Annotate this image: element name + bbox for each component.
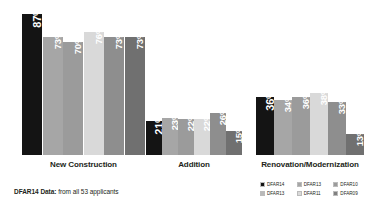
- legend-swatch-icon: [333, 191, 338, 196]
- bar: 15%: [226, 131, 242, 155]
- legend-swatch-icon: [297, 191, 302, 196]
- bar-value-label: 73%: [135, 31, 145, 49]
- bar: 87%: [22, 14, 42, 155]
- bar-value-label: 73%: [53, 31, 63, 49]
- bar: 70%: [63, 42, 83, 155]
- bar-value-label: 26%: [218, 107, 228, 125]
- legend-swatch-icon: [260, 191, 265, 196]
- footnote-source-label: DFAR14 Data:: [14, 188, 56, 195]
- legend-item[interactable]: DFAR13: [260, 189, 295, 198]
- bar-value-label: 36%: [301, 90, 311, 108]
- bar: 36%: [292, 97, 310, 155]
- legend-label: DFAR13: [267, 191, 284, 196]
- legend-item[interactable]: DFAR14: [260, 180, 295, 189]
- bar: 26%: [210, 113, 226, 155]
- bar-value-label: 70%: [73, 35, 83, 53]
- bar-value-label: 13%: [355, 128, 365, 146]
- legend-label: DFAR09: [340, 191, 357, 196]
- legend-label: DFAR14: [267, 182, 284, 187]
- bar-group-bars: 21%23%22%22%26%15%: [146, 0, 242, 155]
- bar: 13%: [346, 134, 364, 155]
- bar: 22%: [178, 119, 194, 155]
- bar-value-label: 76%: [94, 26, 104, 44]
- bar: 36%: [256, 97, 274, 155]
- bar: 34%: [274, 100, 292, 155]
- legend-label: DFAR11: [304, 191, 321, 196]
- bar-value-label: 34%: [283, 94, 293, 112]
- bar-value-label: 15%: [234, 124, 244, 142]
- category-label: New Construction: [22, 160, 145, 169]
- bar-chart: 87%73%70%76%73%73% New Construction 21%2…: [0, 0, 373, 203]
- bar-group-bars: 87%73%70%76%73%73%: [22, 0, 145, 155]
- chart-legend: DFAR14DFAR13DFAR10DFAR13DFAR11DFAR09: [260, 180, 368, 198]
- bar: 33%: [328, 102, 346, 155]
- legend-item[interactable]: DFAR13: [297, 180, 332, 189]
- bar-value-label: 38%: [319, 87, 329, 105]
- legend-swatch-icon: [260, 182, 265, 187]
- bar: 21%: [146, 121, 162, 155]
- bar: 73%: [43, 37, 63, 155]
- bar-value-label: 87%: [32, 6, 43, 27]
- bar: 73%: [125, 37, 145, 155]
- bar: 76%: [84, 32, 104, 155]
- legend-swatch-icon: [297, 182, 302, 187]
- bar: 38%: [310, 93, 328, 155]
- bar-value-label: 73%: [114, 31, 124, 49]
- legend-item[interactable]: DFAR10: [333, 180, 368, 189]
- legend-item[interactable]: DFAR09: [333, 189, 368, 198]
- category-label: Renovation/Modernization: [256, 160, 364, 169]
- bar: 23%: [162, 118, 178, 155]
- legend-label: DFAR13: [304, 182, 321, 187]
- legend-label: DFAR10: [340, 182, 357, 187]
- bar-value-label: 33%: [337, 95, 347, 113]
- bar: 73%: [104, 37, 124, 155]
- footnote: DFAR14 Data: from all 53 applicants: [14, 188, 118, 195]
- bar-group-bars: 36%34%36%38%33%13%: [256, 0, 364, 155]
- legend-item[interactable]: DFAR11: [297, 189, 332, 198]
- footnote-detail: from all 53 applicants: [56, 188, 118, 195]
- legend-swatch-icon: [333, 182, 338, 187]
- category-label: Addition: [146, 160, 242, 169]
- bar: 22%: [194, 119, 210, 155]
